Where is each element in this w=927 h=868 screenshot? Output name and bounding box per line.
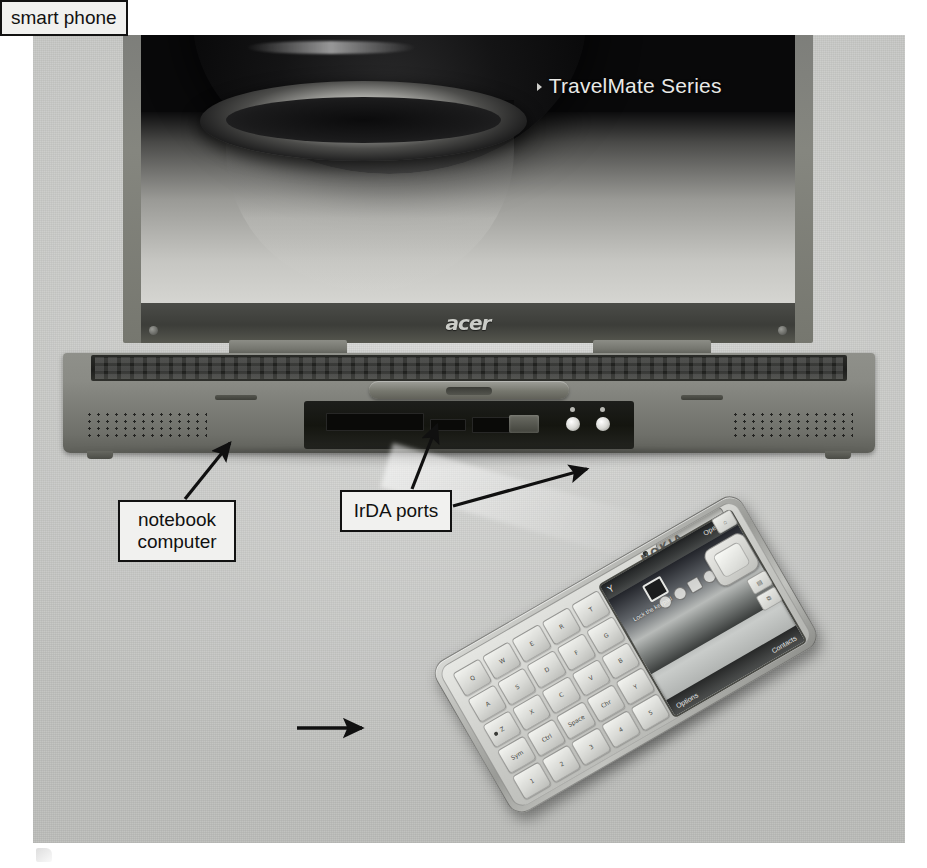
status-led-small-2-icon [600,407,605,412]
status-led-small-1-icon [570,407,575,412]
status-led-2-icon [596,417,610,431]
bezel-power-indicator-icon [778,326,787,335]
screen-title-text: TravelMate Series [549,74,722,97]
callout-notebook-computer: notebook computer [118,500,236,562]
speaker-grille-right [731,411,853,437]
display-bezel-bottom: acer [141,303,795,343]
triangle-right-icon [537,83,542,91]
vent-slot-left [215,395,257,400]
callout-smart-phone: smart phone [0,0,128,36]
bezel-screw-left-icon [149,326,158,335]
laptop-lid-latch [369,381,569,399]
wallpaper-lens-inner-rim [226,97,501,143]
laptop-keyboard [91,355,847,381]
front-port-1 [326,413,424,431]
laptop-base [63,353,875,453]
wallpaper-sheen [246,41,416,53]
laptop-lid: TravelMate Series acer [123,35,813,343]
phone-body: NOKIA Y Operator Lock the keypad [429,491,823,819]
photograph: TravelMate Series acer [33,35,905,843]
screen-title: TravelMate Series [537,74,722,98]
display-wallpaper: TravelMate Series [141,35,795,303]
notebook-computer: TravelMate Series acer [33,35,905,485]
laptop-display: TravelMate Series [141,35,795,303]
page-caption-fragment [36,848,52,862]
laptop-irda-port [509,415,539,433]
status-led-1-icon [566,417,580,431]
acer-logo: acer [446,311,491,335]
keyboard-keys-texture [95,357,843,379]
front-port-2 [430,419,466,431]
figure-container: TravelMate Series acer [0,0,927,868]
laptop-front-port-panel [304,401,634,449]
callout-irda-ports: IrDA ports [340,490,452,532]
speaker-grille-left [85,411,207,437]
